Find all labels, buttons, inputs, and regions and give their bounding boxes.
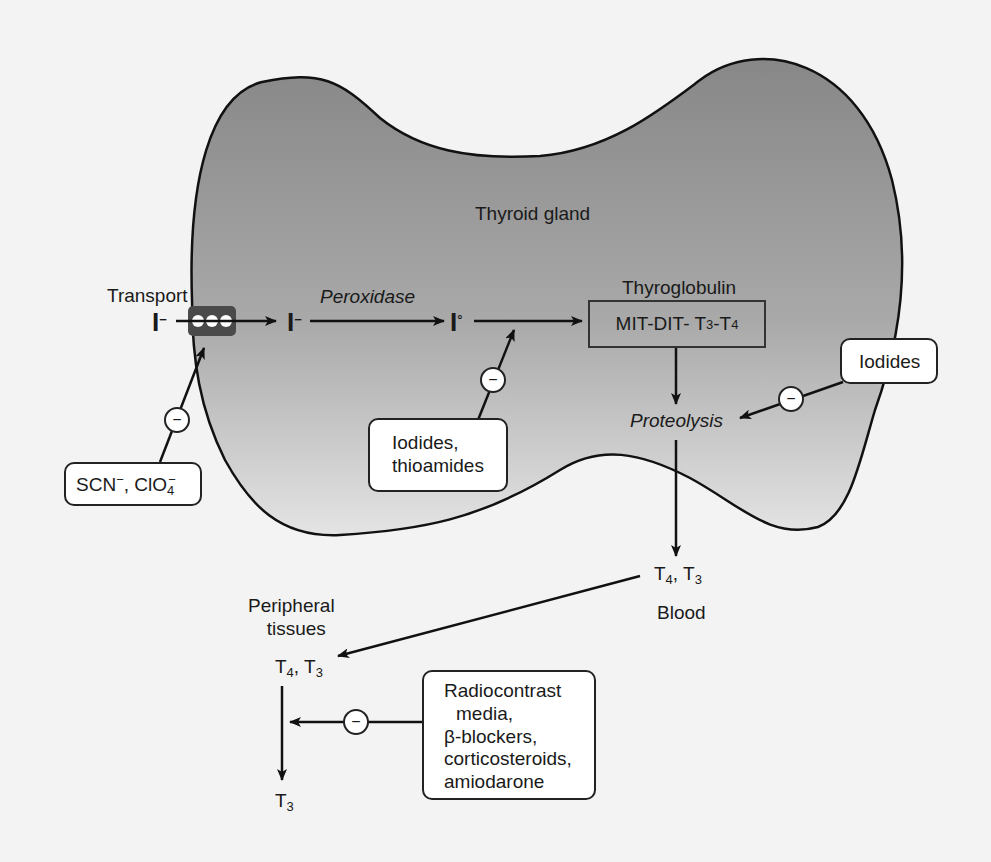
thyroid-gland-shape (192, 59, 903, 535)
thyroid-hormone-pathway-diagram: Thyroid gland Transport I− I− Peroxidase… (0, 0, 991, 862)
blood-hormones: T4, T3 (654, 563, 702, 588)
inhibitor-box-iodides: Iodides (840, 338, 938, 384)
transport-label: Transport (107, 285, 188, 308)
inhibitor-box-scn-clo4: SCN−, ClO4− (64, 462, 202, 506)
thyroglobulin-label: Thyroglobulin (622, 277, 736, 300)
inhibition-symbol-proteolysis: − (778, 386, 804, 412)
inhibitor-box-iodides-thioamides: Iodides, thioamides (368, 418, 508, 492)
inhibition-symbol-organification: − (480, 367, 506, 393)
peripheral-hormones: T4, T3 (275, 656, 323, 681)
proteolysis-label: Proteolysis (630, 410, 723, 433)
iodine-elemental: I° (450, 307, 462, 338)
peripheral-product-t3: T3 (275, 790, 294, 815)
blood-label: Blood (657, 602, 706, 625)
inhibition-symbol-peripheral-conversion: − (343, 709, 369, 735)
iodide-outside: I− (152, 307, 167, 338)
iodide-inside: I− (287, 307, 302, 338)
thyroglobulin-box: MIT-DIT- T3-T4 (588, 300, 766, 348)
inhibitor-box-peripheral-drugs: Radiocontrast media, β-blockers, cortico… (422, 670, 596, 800)
thyroid-gland-label: Thyroid gland (475, 203, 590, 226)
peripheral-tissues-label: Peripheral tissues (248, 595, 335, 641)
inhibition-symbol-transport: − (164, 407, 190, 433)
peroxidase-label: Peroxidase (320, 286, 415, 309)
